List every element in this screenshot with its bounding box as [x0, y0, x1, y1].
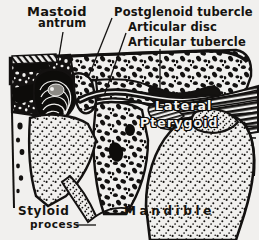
marrow-space-2 — [125, 124, 135, 136]
label-antrum: antrum — [38, 18, 87, 30]
left-cut-edge — [12, 112, 14, 208]
styloid-region — [29, 115, 96, 206]
label-styloid: Styloid — [18, 205, 69, 217]
label-postglenoid-tubercle: Postglenoid tubercle — [114, 7, 253, 19]
label-process: process — [30, 219, 80, 230]
label-pterygoid: Pterygoid — [140, 117, 219, 130]
label-lateral: Lateral — [155, 100, 212, 113]
cut-cortical-edge — [12, 54, 57, 64]
label-mandible: Mandible — [124, 205, 215, 217]
tmj-anatomy-figure: Mastoid antrum Postglenoid tubercle Arti… — [0, 0, 259, 240]
label-articular-disc: Articular disc — [128, 22, 217, 34]
label-articular-tubercle: Articular tubercle — [128, 37, 246, 49]
ossicle-marker — [50, 87, 54, 91]
left-edge-cell-marks — [16, 123, 25, 194]
